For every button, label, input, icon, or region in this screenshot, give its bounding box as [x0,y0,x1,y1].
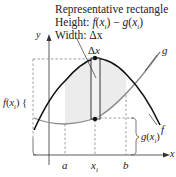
height-formula: f [92,16,95,28]
curve-g-label: g [162,44,168,56]
representative-rectangle [91,58,100,119]
f-xi-label: f(xi) { [3,97,27,113]
g-height-brace [131,118,139,155]
annotation-title: Representative rectangle [55,3,168,15]
delta-x-label: Δx [88,44,100,56]
annotation-width: Width: Δx [55,29,103,41]
f-height-bracket [33,138,36,155]
annotation-width-prefix: Width: [55,29,89,41]
tick-xi: xi [91,159,98,176]
annotation-height-prefix: Height: [55,16,92,28]
y-axis-label: y [36,29,40,41]
point-g-xi [93,117,97,121]
x-axis-arrow-icon [163,153,170,158]
y-axis-arrow-icon [47,34,52,41]
width-formula: Δx [89,29,102,41]
g-xi-label: g(xi) [141,131,160,147]
curve-f-label: f [161,123,164,135]
tick-a: a [62,159,68,171]
x-axis-label: x [170,148,174,160]
tick-b: b [123,159,129,171]
point-f-xi [93,56,97,60]
g-leader-line [145,55,157,71]
